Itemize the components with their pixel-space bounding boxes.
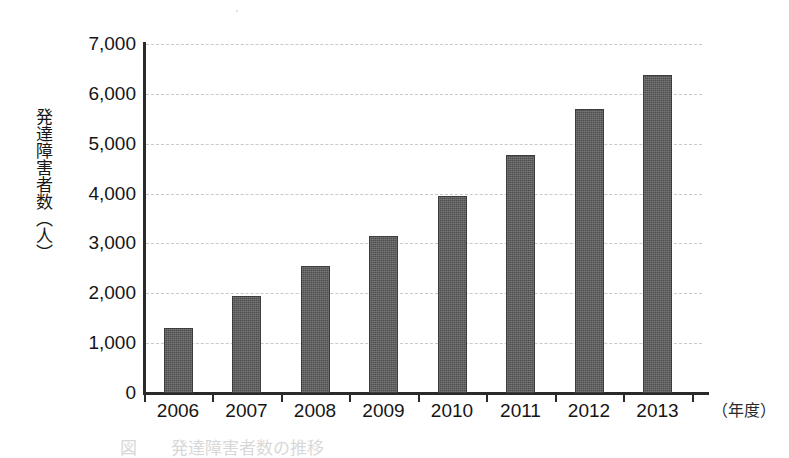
y-tick-label: 0 xyxy=(44,383,136,402)
y-tick-label: 5,000 xyxy=(44,134,136,153)
bar-2011 xyxy=(506,155,535,393)
bar-2013 xyxy=(643,75,672,393)
bar-2009 xyxy=(369,236,398,393)
x-tick-label-2009: 2009 xyxy=(349,400,419,422)
y-tick-label: 1,000 xyxy=(44,333,136,352)
y-tick-label: 6,000 xyxy=(44,84,136,103)
x-axis-unit-label: （年度） xyxy=(712,401,776,421)
x-tick-label-2006: 2006 xyxy=(143,400,213,422)
y-tick-label: 2,000 xyxy=(44,283,136,302)
x-tick-label-2012: 2012 xyxy=(554,400,624,422)
y-tick-label: 4,000 xyxy=(44,184,136,203)
bar-2008 xyxy=(301,266,330,393)
bar-2007 xyxy=(232,296,261,393)
x-tick-label-2008: 2008 xyxy=(280,400,350,422)
bar-2006 xyxy=(164,328,193,393)
x-tick-label-2007: 2007 xyxy=(212,400,282,422)
x-tick-label-2010: 2010 xyxy=(417,400,487,422)
y-axis-tick-labels: 01,0002,0003,0004,0005,0006,0007,000 xyxy=(40,0,136,451)
bar-2010 xyxy=(438,196,467,393)
y-tick-label: 7,000 xyxy=(44,34,136,53)
y-tick-label: 3,000 xyxy=(44,233,136,252)
bar-2012 xyxy=(575,109,604,393)
x-tick-label-2011: 2011 xyxy=(486,400,556,422)
figure-caption: 図 発達障害者数の推移 xyxy=(120,438,680,458)
image-speck xyxy=(236,10,238,12)
bar-series xyxy=(146,44,709,393)
x-tick-label-2013: 2013 xyxy=(623,400,693,422)
